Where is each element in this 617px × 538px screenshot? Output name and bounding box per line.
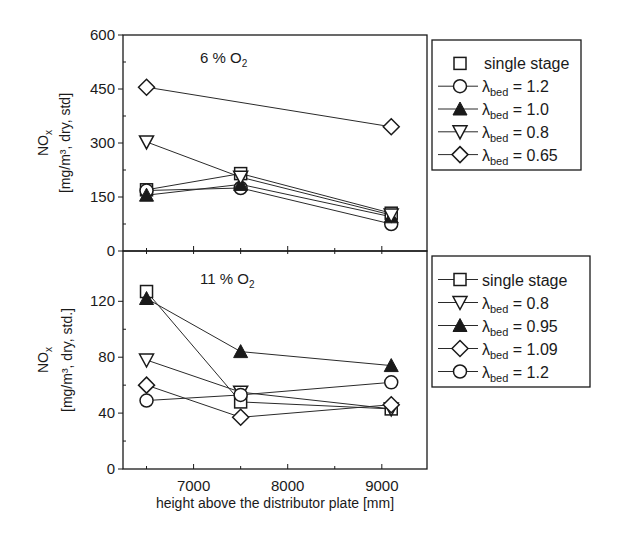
plot-frame — [123, 251, 427, 469]
nox-chart: 0150300450600NOx[mg/m³, dry, std]6 % O2s… — [0, 0, 617, 538]
legend: single stageλbed = 1.2λbed = 1.0λbed = 0… — [432, 40, 581, 170]
diamond-marker — [233, 409, 249, 425]
x-tick-label: 9000 — [365, 477, 398, 494]
series-line — [147, 87, 392, 127]
triangle-down-marker — [140, 354, 154, 367]
o2-annotation: 11 % O2 — [200, 270, 255, 290]
diamond-marker — [139, 377, 155, 393]
circle-marker — [385, 376, 398, 389]
plot-frame — [123, 35, 427, 251]
diamond-marker — [383, 119, 399, 135]
o2-annotation: 6 % O2 — [200, 49, 248, 69]
legend-circle-icon — [454, 365, 467, 378]
legend-circle-icon — [454, 80, 467, 93]
y-tick-label: 80 — [98, 348, 115, 365]
y-tick-label: 150 — [90, 188, 115, 205]
x-tick-label: 8000 — [271, 477, 304, 494]
triangle-down-marker — [140, 136, 154, 149]
triangle-up-marker — [234, 345, 248, 358]
y-tick-label: 0 — [107, 460, 115, 477]
y-tick-label: 40 — [98, 404, 115, 421]
y-axis-label: NOx — [35, 130, 54, 156]
y-tick-label: 300 — [90, 134, 115, 151]
legend-item: single stage — [438, 272, 567, 289]
circle-marker — [140, 394, 153, 407]
legend: single stageλbed = 0.8λbed = 0.95λbed = … — [432, 256, 590, 387]
y-tick-label: 450 — [90, 80, 115, 97]
y-axis-unit-label: [mg/m³, dry, std.] — [59, 308, 75, 412]
legend-square-icon — [454, 274, 466, 286]
y-axis-label: NOx — [35, 347, 54, 373]
series-line — [147, 174, 392, 214]
diamond-marker — [139, 79, 155, 95]
series-line — [147, 292, 392, 409]
legend-label: single stage — [484, 55, 569, 72]
legend-label: single stage — [482, 272, 567, 289]
x-axis-label: height above the distributor plate [mm] — [156, 495, 394, 511]
circle-marker — [234, 388, 247, 401]
series-line — [147, 360, 392, 409]
x-tick-label: 7000 — [177, 477, 210, 494]
y-tick-label: 0 — [107, 242, 115, 259]
y-tick-label: 600 — [90, 26, 115, 43]
y-tick-label: 120 — [90, 292, 115, 309]
legend-square-icon — [454, 57, 466, 69]
series-line — [147, 385, 392, 417]
top-panel-6-percent-o2: 0150300450600NOx[mg/m³, dry, std]6 % O2s… — [35, 26, 581, 259]
series-line — [147, 299, 392, 366]
y-axis-unit-label: [mg/m³, dry, std] — [57, 93, 73, 193]
bottom-panel-11-percent-o2: 04080120700080009000NOx[mg/m³, dry, std.… — [35, 251, 590, 494]
